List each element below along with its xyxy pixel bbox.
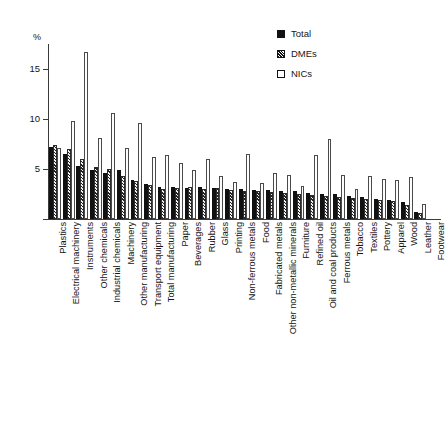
bar-group: [49, 44, 63, 219]
bar-slot: [382, 44, 386, 219]
x-axis-label: Plastics: [59, 222, 68, 254]
bar-slot: [57, 44, 61, 219]
bar-nics: [328, 139, 332, 219]
bar-slot: [314, 44, 318, 219]
x-axis-label: Footwear: [437, 222, 446, 260]
bar-group: [63, 44, 77, 219]
bar-slot: [260, 44, 264, 219]
x-axis-label: Other non-metallic minerals: [289, 222, 298, 334]
bar-group: [76, 44, 90, 219]
bar-nics: [314, 155, 318, 219]
bar-slot: [165, 44, 169, 219]
bar-slot: [179, 44, 183, 219]
x-axis-label: Pottery: [383, 222, 392, 251]
x-axis-label: Food: [262, 222, 271, 243]
bar-group: [293, 44, 307, 219]
bar-group: [144, 44, 158, 219]
x-axis-label: Apparel: [397, 222, 406, 254]
plot-area: [49, 44, 441, 219]
bar-group: [266, 44, 280, 219]
y-tick-0: [43, 219, 49, 220]
bar-nics: [165, 155, 169, 219]
bar-nics: [219, 176, 223, 219]
bar-nics: [368, 176, 372, 219]
x-axis-label: Transport equipment: [154, 222, 163, 306]
bar-slot: [409, 44, 413, 219]
bar-group: [401, 44, 415, 219]
bar-nics: [57, 148, 61, 219]
bar-slot: [395, 44, 399, 219]
legend-swatch-total-icon: [277, 30, 285, 38]
bar-nics: [422, 204, 426, 219]
bar-nics: [98, 138, 102, 219]
bar-slot: [328, 44, 332, 219]
bar-group: [90, 44, 104, 219]
x-axis-label: Refined oil: [316, 222, 325, 265]
bar-slot: [71, 44, 75, 219]
bar-nics: [355, 189, 359, 219]
x-axis-line: [48, 219, 441, 220]
bar-slot: [206, 44, 210, 219]
x-axis-label: Non-ferrous metals: [248, 222, 257, 300]
bar-slot: [98, 44, 102, 219]
x-axis-label: Machinery: [127, 222, 136, 264]
bar-nics: [382, 179, 386, 219]
x-axis-label: Beverages: [194, 222, 203, 266]
bar-slot: [368, 44, 372, 219]
bar-slot: [111, 44, 115, 219]
y-tick-label-15: 15: [22, 63, 40, 74]
bar-group: [185, 44, 199, 219]
bar-slot: [125, 44, 129, 219]
bar-group: [212, 44, 226, 219]
x-axis-label: Textiles: [370, 222, 379, 253]
bar-nics: [125, 148, 129, 219]
bar-nics: [152, 157, 156, 219]
bar-slot: [233, 44, 237, 219]
bar-group: [171, 44, 185, 219]
bar-group: [158, 44, 172, 219]
x-axis-label: Other chemicals: [100, 222, 109, 288]
x-axis-label: Electrical machinery: [72, 222, 81, 304]
bar-nics: [179, 163, 183, 219]
bar-group: [131, 44, 145, 219]
bar-slot: [192, 44, 196, 219]
x-axis-label: Glass: [221, 222, 230, 246]
x-axis-label: Leather: [424, 222, 433, 253]
bar-slot: [84, 44, 88, 219]
y-tick-label-5: 5: [22, 163, 40, 174]
bar-group: [320, 44, 334, 219]
bar-nics: [260, 183, 264, 219]
bar-slot: [301, 44, 305, 219]
bar-nics: [409, 177, 413, 219]
bar-group: [252, 44, 266, 219]
bar-group: [306, 44, 320, 219]
bar-slot: [273, 44, 277, 219]
y-tick-label-10: 10: [22, 113, 40, 124]
bar-nics: [273, 173, 277, 219]
bar-nics: [111, 113, 115, 219]
bar-group: [428, 44, 442, 219]
bar-nics: [341, 175, 345, 219]
bar-slot: [341, 44, 345, 219]
bar-group: [360, 44, 374, 219]
x-axis-label: Rubber: [208, 222, 217, 252]
x-axis-label: Printing: [235, 222, 244, 253]
bar-group: [198, 44, 212, 219]
x-axis-label: Total manufacturing: [167, 222, 176, 302]
bar-slot: [138, 44, 142, 219]
bar-nics: [233, 182, 237, 219]
bar-slot: [287, 44, 291, 219]
bar-slot: [355, 44, 359, 219]
x-axis-label: Industrial chemicals: [113, 222, 122, 303]
legend-label-total: Total: [291, 29, 311, 39]
bar-group: [374, 44, 388, 219]
x-axis-label: Tobacco: [356, 222, 365, 256]
x-axis-category-labels: PlasticsElectrical machineryInstrumentsO…: [49, 222, 441, 422]
bar-nics: [206, 159, 210, 219]
bar-group: [414, 44, 428, 219]
legend-item-total: Total: [277, 28, 317, 39]
bar-group: [239, 44, 253, 219]
y-axis-unit-label: %: [33, 32, 41, 42]
x-axis-label: Ferrous metals: [343, 222, 352, 283]
bar-nics: [71, 121, 75, 219]
